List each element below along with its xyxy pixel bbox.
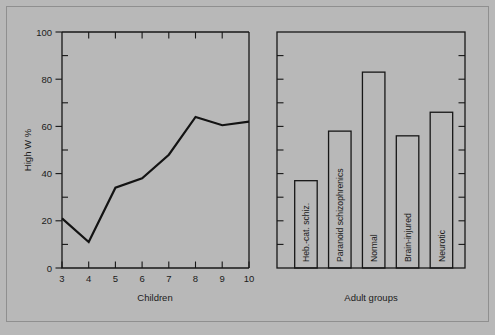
left-xtick-label-7: 7: [166, 273, 171, 284]
bar-labels-group: Heb.-cat. schiz.Paranoid schizophrenicsN…: [301, 168, 446, 262]
bar-label-2: Normal: [369, 234, 379, 262]
left-y-axis-title: High W %: [22, 128, 33, 171]
right-panel-left-ticks: [277, 56, 284, 245]
right-panel-bar-chart: Heb.-cat. schiz.Paranoid schizophrenicsN…: [277, 32, 465, 303]
left-xtick-label-3: 3: [59, 273, 64, 284]
left-panel-axes: [62, 32, 249, 268]
left-ytick-label-60: 60: [41, 121, 52, 132]
left-ytick-label-20: 20: [41, 215, 52, 226]
figure-canvas: 100 80 60 40 20 0 High W %: [0, 0, 495, 335]
left-xtick-label-4: 4: [86, 273, 91, 284]
line-series-path: [62, 117, 249, 242]
left-xtick-label-5: 5: [113, 273, 118, 284]
left-panel-y-minor-ticks: [62, 56, 68, 245]
left-panel-x-top-ticks: [89, 32, 223, 39]
right-panel-y-ticks: [459, 56, 466, 245]
left-xtick-label-8: 8: [193, 273, 198, 284]
left-ytick-label-100: 100: [36, 27, 52, 38]
left-xtick-label-9: 9: [220, 273, 225, 284]
left-ytick-label-80: 80: [41, 74, 52, 85]
bar-label-1: Paranoid schizophrenics: [335, 168, 345, 262]
left-xtick-label-6: 6: [139, 273, 144, 284]
left-xtick-label-10: 10: [244, 273, 255, 284]
left-panel-y-major-ticks: [56, 32, 63, 268]
bar-label-4: Neurotic: [437, 229, 447, 262]
left-x-axis-title: Children: [137, 292, 172, 303]
left-ytick-label-0: 0: [47, 263, 52, 274]
bar-label-3: Brain-injured: [403, 213, 413, 262]
chart-svg: 100 80 60 40 20 0 High W %: [0, 0, 495, 335]
left-panel-line-chart: 100 80 60 40 20 0 High W %: [22, 27, 254, 304]
left-ytick-label-40: 40: [41, 168, 52, 179]
bar-label-0: Heb.-cat. schiz.: [301, 203, 311, 262]
left-panel-x-ticks: [62, 262, 249, 269]
right-x-axis-title: Adult groups: [344, 292, 398, 303]
